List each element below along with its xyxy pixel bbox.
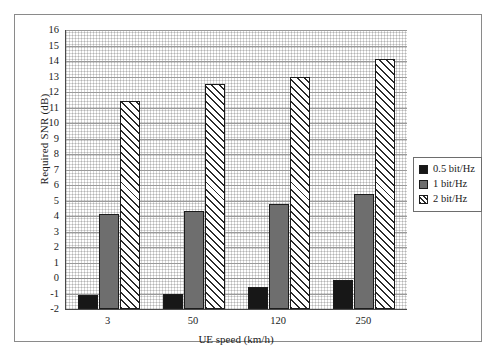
x-tick-mark (150, 309, 151, 310)
y-tick-label: 11 (33, 102, 59, 113)
x-axis-title: UE speed (km/h) (65, 333, 407, 345)
bar (375, 59, 395, 309)
x-axis-tick-labels: 350120250 (65, 315, 407, 331)
x-tick-mark (321, 309, 322, 310)
bar (354, 194, 374, 309)
legend-item[interactable]: 1 bit/Hz (419, 177, 475, 192)
y-tick-label: -2 (33, 304, 59, 315)
legend-label: 0.5 bit/Hz (433, 164, 475, 175)
y-tick-label: 7 (33, 164, 59, 175)
legend-swatch-icon (419, 180, 428, 189)
plot-area (65, 30, 407, 310)
y-tick-label: 4 (33, 211, 59, 222)
chart-legend: 0.5 bit/Hz1 bit/Hz2 bit/Hz (413, 157, 482, 212)
x-tick-mark (236, 309, 237, 310)
y-tick-label: 6 (33, 180, 59, 191)
bar (184, 211, 204, 309)
bar (290, 77, 310, 310)
x-tick-label: 50 (188, 315, 199, 326)
x-tick-label: 120 (270, 315, 286, 326)
bar (120, 101, 140, 309)
y-tick-label: 12 (33, 87, 59, 98)
legend-label: 2 bit/Hz (433, 194, 467, 205)
legend-item[interactable]: 2 bit/Hz (419, 192, 475, 207)
y-tick-label: 9 (33, 133, 59, 144)
y-tick-label: 10 (33, 118, 59, 129)
bar-group (151, 30, 236, 309)
bar-group (66, 30, 151, 309)
y-tick-label: 8 (33, 149, 59, 160)
y-tick-label: 5 (33, 195, 59, 206)
x-tick-label: 250 (356, 315, 372, 326)
bar (205, 84, 225, 309)
legend-item[interactable]: 0.5 bit/Hz (419, 162, 475, 177)
bar (163, 294, 183, 310)
y-tick-label: 3 (33, 226, 59, 237)
chart-figure-frame: Required SNR (dB) 1615141312111098765432… (14, 14, 482, 342)
bar (333, 280, 353, 309)
legend-swatch-icon (419, 165, 428, 174)
y-tick-label: 13 (33, 71, 59, 82)
y-tick-label: 1 (33, 257, 59, 268)
x-tick-label: 3 (105, 315, 110, 326)
bar-group (237, 30, 322, 309)
bar (248, 287, 268, 309)
bar-group (322, 30, 407, 309)
y-tick-label: 16 (33, 25, 59, 36)
y-tick-label: 14 (33, 56, 59, 67)
y-tick-label: 15 (33, 40, 59, 51)
x-tick-mark (406, 309, 407, 310)
y-axis-tick-labels: 161514131211109876543210-1-2 (33, 30, 59, 310)
y-tick-label: -1 (33, 288, 59, 299)
y-tick-label: 0 (33, 273, 59, 284)
bar (78, 295, 98, 309)
legend-swatch-icon (419, 195, 428, 204)
legend-label: 1 bit/Hz (433, 179, 467, 190)
bar (269, 204, 289, 309)
bar (99, 214, 119, 309)
y-tick-label: 2 (33, 242, 59, 253)
y-tick-mark (65, 309, 66, 310)
